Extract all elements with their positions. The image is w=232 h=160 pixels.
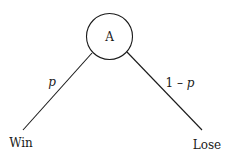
branch-win-edge <box>23 53 92 130</box>
outcome-win-label: Win <box>9 136 33 150</box>
branch-lose-probability: 1 – p <box>166 76 195 90</box>
branch-win: p Win <box>9 53 92 150</box>
variable-p: p <box>187 76 195 90</box>
branch-lose: 1 – p Lose <box>127 52 221 152</box>
probability-tree-diagram: A p Win 1 – p Lose <box>0 0 232 160</box>
root-node: A <box>87 14 133 60</box>
root-node-label: A <box>104 30 114 44</box>
branch-lose-probability-text: 1 – <box>166 76 187 90</box>
outcome-lose-label: Lose <box>193 138 221 152</box>
branch-lose-edge <box>127 52 202 130</box>
branch-win-probability: p <box>48 75 56 89</box>
